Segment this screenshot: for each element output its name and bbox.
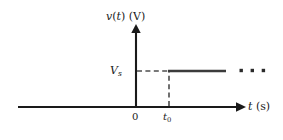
ellipsis-dots [240,69,266,72]
origin-label: 0 [132,112,138,122]
y-axis-title: v(t) (V) [106,11,145,22]
x-axis-unit: (s) [256,100,270,113]
guide-lines-group [137,71,169,106]
y-axis-unit: (V) [129,10,146,23]
step-function-figure: v(t) (V) t (s) Vs 0 t0 [0,0,283,140]
t0-label-subscript: 0 [167,116,171,124]
vs-label-variable: V [110,64,118,77]
y-axis-group [131,24,140,108]
vs-label-subscript: s [118,69,122,78]
vs-level-label: Vs [110,65,122,76]
y-axis-paren-close: ) [121,10,125,23]
x-axis-variable: t [248,100,252,113]
x-axis-title: t (s) [248,101,270,112]
t0-tick-label: t0 [163,112,171,122]
x-axis-arrowhead [236,102,246,111]
y-axis-arrowhead [131,24,140,33]
